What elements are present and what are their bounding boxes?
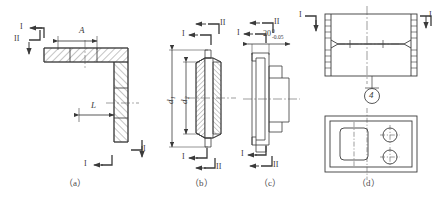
section-mark-a-top-left: I	[20, 22, 23, 31]
dimension-label-a: A	[79, 25, 85, 35]
caption-b: （b）	[190, 176, 213, 189]
section-mark-b-top-1: I	[182, 29, 185, 38]
section-mark-c-top-2: II	[274, 17, 279, 26]
tolerance-lower: -0.05	[272, 35, 283, 41]
section-mark-a-left: II	[14, 34, 19, 43]
tolerance-deviations: 0-0.05	[272, 29, 283, 40]
section-mark-b-top-2: II	[220, 18, 225, 27]
section-mark-c-top-1: I	[237, 28, 240, 37]
section-mark-b-bottom-1: I	[182, 152, 185, 161]
section-mark-a-bottom: I	[84, 159, 87, 168]
figure-canvas: A L I II I I d₁ d₂ II I I II 200-0.05 II…	[0, 0, 434, 198]
tolerance-annotation: 200-0.05	[263, 29, 283, 40]
caption-c: （c）	[259, 176, 281, 189]
section-mark-d-top-right: I	[429, 10, 432, 19]
panel-d-geometry	[305, 6, 431, 180]
caption-a: （a）	[64, 176, 86, 189]
section-mark-c-bottom-1: I	[241, 149, 244, 158]
panel-a-geometry	[29, 28, 142, 165]
dimension-label-l: L	[91, 100, 96, 110]
dimension-label-d1: d₁	[165, 96, 175, 104]
caption-d: （d）	[357, 176, 380, 189]
panel-c-geometry	[243, 23, 300, 166]
section-mark-a-bottom-right: I	[143, 144, 146, 153]
tolerance-nominal: 20	[263, 29, 271, 38]
section-mark-d-top-left: I	[299, 10, 302, 19]
section-mark-c-bottom-2: II	[273, 160, 278, 169]
balloon-item-number: 4	[369, 90, 374, 100]
dimension-label-d2: d₂	[179, 96, 189, 104]
section-mark-b-bottom-2: II	[216, 162, 221, 171]
